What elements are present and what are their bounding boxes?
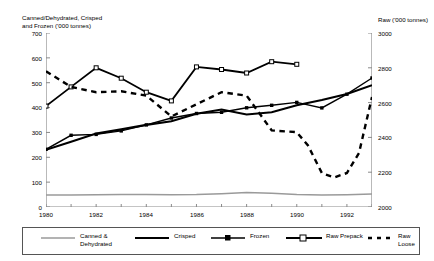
- plot-svg: [46, 33, 372, 207]
- ytick-left-700: 700: [20, 30, 42, 37]
- legend-label-frozen: Frozen: [250, 232, 269, 240]
- axis-lines: [46, 33, 372, 207]
- series-raw-loose: [46, 71, 372, 177]
- ytick-left-100: 100: [20, 179, 42, 186]
- plot-area: [46, 33, 372, 207]
- series-crisped: [46, 85, 372, 150]
- legend-key-raw-prepack: [286, 233, 322, 243]
- left-axis-title: Canned/Dehydrated, Crisped and Frozen ('…: [22, 14, 102, 31]
- xtick-1990: 1990: [282, 211, 312, 218]
- xtick-1992: 1992: [332, 211, 362, 218]
- ytick-left-300: 300: [20, 129, 42, 136]
- legend-key-crisped: [135, 235, 169, 241]
- chart-legend: Canned & Dehydrated Crisped Frozen Raw P…: [22, 227, 420, 255]
- xtick-1988: 1988: [232, 211, 262, 218]
- legend-label-raw-prepack: Raw Prepack: [326, 232, 363, 240]
- legend-label-raw-loose: Raw Loose: [398, 232, 419, 247]
- ytick-right-2600: 2600: [378, 100, 402, 107]
- xtick-1984: 1984: [131, 211, 161, 218]
- right-axis-title: Raw ('000 tonnes): [378, 16, 428, 24]
- ytick-right-2200: 2200: [378, 169, 402, 176]
- ytick-left-400: 400: [20, 104, 42, 111]
- legend-label-crisped: Crisped: [174, 232, 195, 240]
- ytick-left-200: 200: [20, 154, 42, 161]
- ytick-right-2800: 2800: [378, 65, 402, 72]
- xtick-1982: 1982: [81, 211, 111, 218]
- legend-key-frozen: [211, 233, 245, 243]
- xtick-1986: 1986: [182, 211, 212, 218]
- series-frozen: [46, 78, 372, 149]
- ytick-right-3000: 3000: [378, 30, 402, 37]
- chart-figure: Canned/Dehydrated, Crisped and Frozen ('…: [0, 0, 434, 261]
- series-frozen-markers: [46, 76, 372, 151]
- ytick-left-500: 500: [20, 80, 42, 87]
- legend-key-canned-dehydrated: [41, 235, 75, 241]
- legend-label-canned-dehydrated: Canned & Dehydrated: [80, 232, 112, 247]
- series-canned-dehydrated: [46, 193, 372, 196]
- ytick-right-2400: 2400: [378, 134, 402, 141]
- xtick-1980: 1980: [31, 211, 61, 218]
- ytick-right-2000: 2000: [378, 204, 402, 211]
- ytick-left-600: 600: [20, 55, 42, 62]
- legend-key-raw-loose: [368, 235, 394, 241]
- ytick-left-0: 0: [20, 204, 42, 211]
